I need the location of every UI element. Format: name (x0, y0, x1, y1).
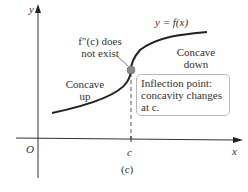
x-axis (16, 138, 234, 140)
derivative-note-line2: not exist (74, 47, 126, 59)
derivative-note-line1: f″(c) does (74, 35, 126, 47)
origin-label: O (26, 143, 34, 155)
inflection-point (127, 66, 135, 74)
concave-up-label: Concave up (62, 78, 108, 102)
inflection-line3: at c. (141, 101, 225, 113)
figure-caption: (c) (121, 163, 133, 175)
derivative-note: f″(c) does not exist (74, 35, 126, 59)
concave-up-line2: up (62, 90, 108, 102)
inflection-line1: Inflection point: (141, 77, 225, 89)
concave-down-label: Concave down (173, 46, 219, 70)
concave-down-line1: Concave (173, 46, 219, 58)
y-axis-arrow-icon (35, 4, 41, 13)
y-axis-label: y (29, 3, 34, 15)
concave-up-line1: Concave (62, 78, 108, 90)
x-axis-arrow-icon (233, 137, 243, 143)
concave-down-line2: down (173, 58, 219, 70)
inflection-point-callout: Inflection point: concavity changes at c… (136, 74, 230, 116)
x-axis-label: x (232, 145, 237, 157)
inflection-line2: concavity changes (141, 89, 225, 101)
c-label: c (127, 146, 132, 158)
curve-label: y = f(x) (155, 16, 188, 28)
